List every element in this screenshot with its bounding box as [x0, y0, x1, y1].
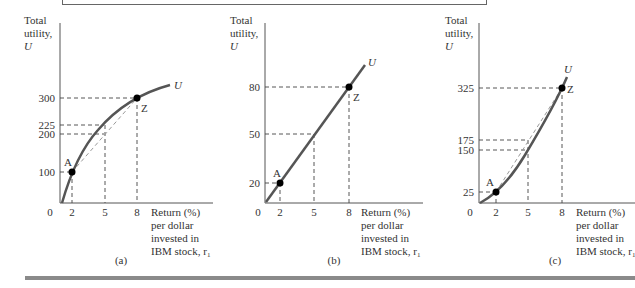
- panel-b: Total utility, U A Z U 20 50 80 0 2 5 8: [230, 14, 423, 267]
- panel-caption: (c): [549, 254, 562, 267]
- point-a-label: A: [64, 156, 72, 168]
- point-a: [277, 180, 284, 187]
- y-axis-label-line1: Total: [230, 14, 252, 26]
- y-axis-label-line3: U: [445, 40, 454, 52]
- svg-text:8: 8: [346, 206, 352, 218]
- svg-text:Return (%): Return (%): [576, 206, 626, 219]
- svg-text:5: 5: [102, 206, 108, 218]
- svg-text:225: 225: [39, 119, 56, 131]
- svg-text:invested in: invested in: [151, 232, 199, 244]
- svg-text:8: 8: [559, 206, 565, 218]
- panel-caption: (a): [115, 254, 128, 267]
- point-z: [346, 84, 353, 91]
- y-axis-label-line1: Total: [445, 14, 467, 26]
- point-z-label: Z: [141, 102, 148, 114]
- curve-label: U: [368, 56, 377, 68]
- svg-text:IBM stock, r1: IBM stock, r1: [151, 245, 211, 259]
- curve-label: U: [174, 79, 183, 91]
- bottom-rule: [25, 276, 635, 280]
- y-axis-label-line2: utility,: [445, 27, 474, 39]
- svg-text:0: 0: [467, 206, 473, 218]
- y-tick-labels: 25 150 175 325: [458, 82, 475, 198]
- panel-caption: (b): [328, 254, 341, 267]
- point-a-label: A: [273, 167, 281, 179]
- svg-text:2: 2: [493, 206, 499, 218]
- svg-text:IBM stock, r1: IBM stock, r1: [576, 245, 635, 259]
- curve-label: U: [564, 63, 573, 75]
- utility-curve-concave: [62, 85, 170, 203]
- svg-text:Return (%): Return (%): [151, 206, 201, 219]
- svg-text:25: 25: [463, 186, 475, 198]
- svg-text:325: 325: [458, 82, 475, 94]
- svg-text:per dollar: per dollar: [576, 219, 619, 231]
- guide-lines: [60, 98, 137, 203]
- point-z: [134, 95, 141, 102]
- utility-figure: Total utility, U A Z U 100 200 225 300: [0, 0, 635, 288]
- svg-text:80: 80: [249, 81, 261, 93]
- x-tick-labels: 0 2 5 8: [47, 206, 140, 218]
- svg-text:100: 100: [39, 166, 56, 178]
- svg-text:2: 2: [69, 206, 75, 218]
- svg-text:per dollar: per dollar: [361, 219, 404, 231]
- x-tick-labels: 0 2 5 8: [255, 206, 352, 218]
- panel-c: Total utility, U A Z U 25 150 175 325 0: [445, 14, 635, 267]
- chord-line: [72, 98, 137, 172]
- point-z-label: Z: [567, 83, 574, 95]
- svg-text:0: 0: [255, 206, 261, 218]
- svg-text:300: 300: [39, 92, 56, 104]
- svg-text:0: 0: [47, 206, 53, 218]
- svg-text:20: 20: [249, 177, 261, 189]
- y-axis-label-line2: utility,: [230, 27, 259, 39]
- point-z: [559, 85, 566, 92]
- svg-text:invested in: invested in: [361, 232, 409, 244]
- svg-text:5: 5: [525, 206, 531, 218]
- chord-line: [496, 88, 562, 192]
- svg-text:8: 8: [134, 206, 140, 218]
- svg-text:5: 5: [311, 206, 317, 218]
- svg-text:IBM stock, r1: IBM stock, r1: [361, 245, 421, 259]
- y-tick-labels: 100 200 225 300: [39, 92, 56, 178]
- svg-text:175: 175: [458, 134, 475, 146]
- y-axis-label-line1: Total: [24, 14, 46, 26]
- svg-text:2: 2: [277, 206, 283, 218]
- y-axis-label-line3: U: [230, 40, 239, 52]
- svg-text:invested in: invested in: [576, 232, 624, 244]
- point-a: [69, 169, 76, 176]
- point-z-label: Z: [353, 91, 360, 103]
- svg-text:Return (%): Return (%): [361, 206, 411, 219]
- x-axis-label: Return (%) per dollar invested in IBM st…: [361, 206, 421, 259]
- x-axis-label: Return (%) per dollar invested in IBM st…: [576, 206, 635, 259]
- point-a-label: A: [486, 176, 494, 188]
- y-axis-label-line3: U: [24, 40, 33, 52]
- x-axis-label: Return (%) per dollar invested in IBM st…: [151, 206, 211, 259]
- y-axis-label-line2: utility,: [24, 27, 53, 39]
- y-tick-labels: 20 50 80: [249, 81, 261, 189]
- x-tick-labels: 0 2 5 8: [467, 206, 565, 218]
- panel-a: Total utility, U A Z U 100 200 225 300: [24, 14, 213, 267]
- point-a: [493, 189, 500, 196]
- svg-text:per dollar: per dollar: [151, 219, 194, 231]
- svg-text:50: 50: [249, 128, 261, 140]
